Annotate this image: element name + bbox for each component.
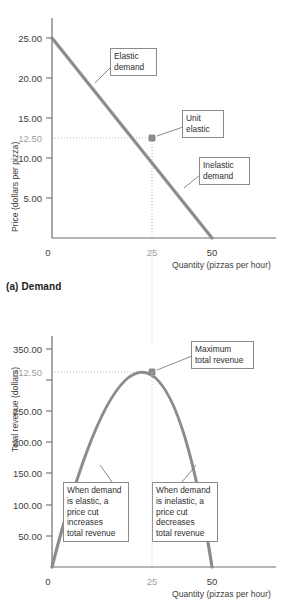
demand-chart: 25.00 20.00 15.00 12.50 10.00 5.00 0 25 … bbox=[0, 0, 286, 272]
demand-xtick-label-0: 0 bbox=[45, 247, 50, 258]
callout-inelastic-demand: Inelastic demand bbox=[199, 157, 250, 185]
revenue-xtick-label-50: 50 bbox=[207, 576, 218, 587]
demand-ytick-label-12-50: 12.50 bbox=[18, 133, 42, 144]
demand-xtick-label-25: 25 bbox=[147, 247, 158, 258]
revenue-xtick-label-0: 0 bbox=[45, 576, 50, 587]
revenue-xtick-label-25: 25 bbox=[147, 576, 158, 587]
inelastic-demand-leader bbox=[184, 175, 200, 188]
revenue-ytick-label-150: 150.00 bbox=[13, 468, 42, 479]
maximum-revenue-leader bbox=[157, 356, 192, 370]
callout-unit-elastic: Unit elastic bbox=[182, 110, 224, 138]
demand-ytick-label-25: 25.00 bbox=[18, 33, 42, 44]
callout-inelastic-price-cut: When demand is inelastic, a price cut de… bbox=[152, 482, 218, 542]
revenue-ytick-label-50: 50.00 bbox=[18, 531, 42, 542]
revenue-y-axis-title: Total revenue (dollars) bbox=[10, 367, 20, 452]
revenue-ytick-label-100: 100.00 bbox=[13, 500, 42, 511]
callout-elastic-demand: Elastic demand bbox=[110, 48, 157, 76]
elasticity-total-revenue-figure: 25.00 20.00 15.00 12.50 10.00 5.00 0 25 … bbox=[0, 0, 286, 605]
callout-elastic-price-cut: When demand is elastic, a price cut incr… bbox=[63, 482, 129, 542]
demand-x-axis-title: Quantity (pizzas per hour) bbox=[172, 260, 271, 270]
panel-a-caption: (a) Demand bbox=[6, 281, 61, 292]
demand-y-axis-title: Price (dollars per pizza) bbox=[10, 142, 20, 232]
demand-ytick-label-10: 10.00 bbox=[18, 153, 42, 164]
revenue-ytick-label-350: 350.00 bbox=[13, 344, 42, 355]
elastic-price-cut-leader bbox=[100, 465, 112, 482]
unit-elastic-leader bbox=[157, 127, 183, 136]
demand-ytick-label-15: 15.00 bbox=[18, 113, 42, 124]
demand-xtick-label-50: 50 bbox=[207, 247, 218, 258]
revenue-x-axis-title: Quantity (pizzas per hour) bbox=[172, 589, 271, 599]
demand-ytick-label-20: 20.00 bbox=[18, 73, 42, 84]
maximum-revenue-marker bbox=[149, 369, 156, 376]
callout-maximum-total-revenue: Maximum total revenue bbox=[191, 341, 254, 369]
unit-elastic-marker bbox=[149, 135, 156, 142]
demand-ytick-label-5: 5.00 bbox=[24, 193, 43, 204]
